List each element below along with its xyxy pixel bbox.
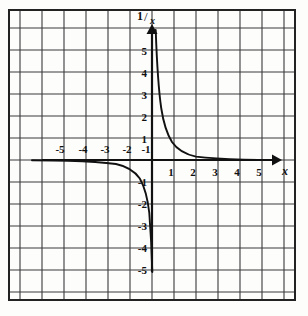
tick-label-y-5: 5 [142, 45, 148, 57]
function-label-denominator: x [149, 15, 155, 26]
tick-label-y-neg4: -4 [138, 242, 148, 254]
tick-label-x-1: 1 [168, 166, 174, 178]
tick-label-y-1: 1 [142, 133, 148, 145]
function-label-numerator: 1 [137, 9, 143, 23]
tick-label-y-4: 4 [142, 67, 148, 79]
graph-figure: -5 -4 -3 -2 -1 1 2 3 4 5 5 4 3 2 1 -1 -2… [0, 0, 308, 316]
tick-label-x-neg3: -3 [100, 143, 110, 155]
tick-label-x-3: 3 [212, 166, 218, 178]
tick-label-x-2: 2 [190, 166, 196, 178]
hyperbola-plot: -5 -4 -3 -2 -1 1 2 3 4 5 5 4 3 2 1 -1 -2… [0, 0, 308, 316]
tick-label-y-2: 2 [142, 111, 148, 123]
tick-label-y-3: 3 [142, 89, 148, 101]
x-axis-label: x [281, 164, 288, 178]
tick-label-x-4: 4 [234, 166, 240, 178]
tick-label-x-5: 5 [256, 166, 262, 178]
tick-label-x-neg4: -4 [78, 143, 88, 155]
tick-label-y-neg1: -1 [138, 176, 147, 188]
tick-label-x-neg5: -5 [55, 143, 65, 155]
tick-label-x-neg2: -2 [122, 143, 132, 155]
tick-label-y-neg2: -2 [138, 198, 148, 210]
tick-label-y-neg3: -3 [138, 220, 148, 232]
function-label-slash: / [144, 9, 148, 24]
tick-label-y-neg5: -5 [138, 264, 148, 276]
